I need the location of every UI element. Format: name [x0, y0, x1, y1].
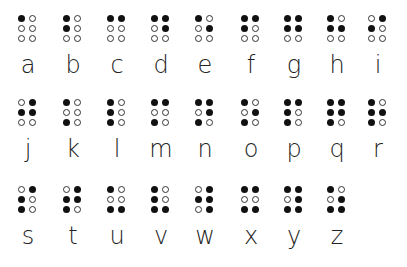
filled-dot-icon — [107, 109, 114, 116]
empty-dot-icon — [162, 109, 169, 116]
filled-dot-icon — [252, 15, 259, 22]
braille-letter-label: b — [58, 52, 88, 78]
braille-dots — [283, 14, 305, 44]
braille-letter-label: o — [236, 136, 266, 162]
filled-dot-icon — [338, 196, 345, 203]
braille-letter-label: u — [102, 223, 132, 249]
braille-cell-j: j — [13, 98, 43, 170]
filled-dot-icon — [241, 99, 248, 106]
filled-dot-icon — [63, 15, 70, 22]
empty-dot-icon — [284, 35, 291, 42]
empty-dot-icon — [118, 25, 125, 32]
braille-dots — [194, 185, 216, 215]
braille-letter-label: t — [58, 223, 88, 249]
empty-dot-icon — [18, 35, 25, 42]
filled-dot-icon — [63, 196, 70, 203]
empty-dot-icon — [338, 119, 345, 126]
filled-dot-icon — [284, 119, 291, 126]
braille-letter-label: a — [13, 52, 43, 78]
braille-cell-y: y — [279, 185, 309, 257]
braille-dots — [326, 98, 348, 128]
braille-dots — [150, 185, 172, 215]
filled-dot-icon — [252, 109, 259, 116]
empty-dot-icon — [379, 99, 386, 106]
filled-dot-icon — [241, 15, 248, 22]
filled-dot-icon — [195, 196, 202, 203]
braille-letter-label: r — [363, 136, 393, 162]
braille-letter-label: g — [279, 52, 309, 78]
filled-dot-icon — [18, 15, 25, 22]
empty-dot-icon — [295, 109, 302, 116]
filled-dot-icon — [338, 25, 345, 32]
empty-dot-icon — [18, 25, 25, 32]
braille-cell-h: h — [322, 14, 352, 86]
braille-letter-label: c — [102, 52, 132, 78]
braille-letter-label: v — [146, 223, 176, 249]
braille-dots — [62, 98, 84, 128]
filled-dot-icon — [206, 206, 213, 213]
filled-dot-icon — [295, 206, 302, 213]
empty-dot-icon — [195, 109, 202, 116]
empty-dot-icon — [63, 35, 70, 42]
empty-dot-icon — [327, 196, 334, 203]
filled-dot-icon — [63, 99, 70, 106]
filled-dot-icon — [368, 99, 375, 106]
filled-dot-icon — [151, 15, 158, 22]
empty-dot-icon — [151, 109, 158, 116]
braille-cell-i: i — [363, 14, 393, 86]
empty-dot-icon — [241, 196, 248, 203]
empty-dot-icon — [195, 25, 202, 32]
filled-dot-icon — [338, 109, 345, 116]
empty-dot-icon — [252, 99, 259, 106]
empty-dot-icon — [379, 119, 386, 126]
empty-dot-icon — [162, 196, 169, 203]
braille-dots — [326, 14, 348, 44]
filled-dot-icon — [284, 206, 291, 213]
filled-dot-icon — [162, 15, 169, 22]
filled-dot-icon — [107, 206, 114, 213]
empty-dot-icon — [379, 25, 386, 32]
empty-dot-icon — [29, 35, 36, 42]
braille-cell-g: g — [279, 14, 309, 86]
braille-cell-o: o — [236, 98, 266, 170]
empty-dot-icon — [284, 196, 291, 203]
empty-dot-icon — [63, 109, 70, 116]
braille-cell-s: s — [13, 185, 43, 257]
empty-dot-icon — [368, 15, 375, 22]
braille-dots — [106, 185, 128, 215]
filled-dot-icon — [327, 206, 334, 213]
braille-letter-label: j — [13, 136, 43, 162]
empty-dot-icon — [295, 35, 302, 42]
filled-dot-icon — [151, 99, 158, 106]
empty-dot-icon — [327, 35, 334, 42]
braille-row-2: jklmnopqr — [0, 98, 407, 178]
braille-cell-v: v — [146, 185, 176, 257]
braille-cell-z: z — [322, 185, 352, 257]
braille-letter-label: q — [322, 136, 352, 162]
filled-dot-icon — [338, 99, 345, 106]
filled-dot-icon — [74, 196, 81, 203]
filled-dot-icon — [368, 25, 375, 32]
filled-dot-icon — [63, 206, 70, 213]
empty-dot-icon — [252, 35, 259, 42]
braille-cell-m: m — [146, 98, 176, 170]
braille-dots — [283, 185, 305, 215]
empty-dot-icon — [252, 119, 259, 126]
braille-cell-p: p — [279, 98, 309, 170]
empty-dot-icon — [162, 35, 169, 42]
braille-dots — [367, 14, 389, 44]
filled-dot-icon — [295, 196, 302, 203]
filled-dot-icon — [107, 15, 114, 22]
empty-dot-icon — [74, 109, 81, 116]
braille-dots — [17, 185, 39, 215]
filled-dot-icon — [29, 186, 36, 193]
filled-dot-icon — [162, 206, 169, 213]
empty-dot-icon — [29, 15, 36, 22]
filled-dot-icon — [151, 206, 158, 213]
filled-dot-icon — [118, 15, 125, 22]
filled-dot-icon — [107, 186, 114, 193]
braille-cell-c: c — [102, 14, 132, 86]
braille-letter-label: y — [279, 223, 309, 249]
empty-dot-icon — [151, 25, 158, 32]
braille-letter-label: p — [279, 136, 309, 162]
